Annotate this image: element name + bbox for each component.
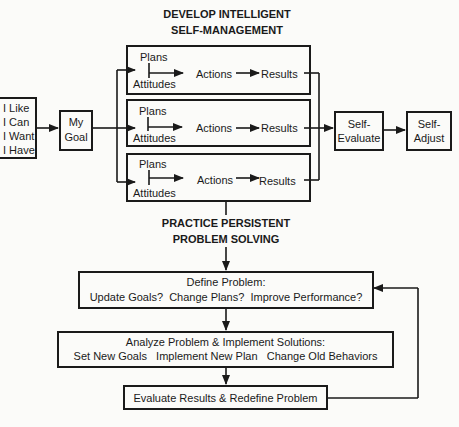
analyze-implement-box: Analyze Problem & Implement Solutions: S… [57,331,394,368]
self-evaluate-line-1: Self- [336,118,382,130]
self-evaluate-line-2: Evaluate [336,132,382,144]
branch-1-attitudes: Attitudes [133,78,176,91]
self-adjust-line-1: Self- [408,118,450,130]
my-goal-box: My Goal [59,110,93,151]
branch-1-actions: Actions [196,68,232,81]
self-adjust-box: Self- Adjust [406,111,452,151]
branch-box-3: Plans Attitudes Actions Results [126,153,311,202]
input-i-want: I Want [3,130,34,143]
goal-line-2: Goal [61,131,91,143]
branch-3-results: Results [259,175,296,188]
goal-line-1: My [61,116,91,128]
define-problem-heading: Define Problem: [80,276,372,288]
branch-1-results: Results [261,68,298,81]
title-line-2: SELF-MANAGEMENT [150,22,304,38]
evaluate-redefine-box: Evaluate Results & Redefine Problem [123,385,328,410]
branch-1-plans: Plans [140,51,168,64]
bottom-title-line-1: PRACTICE PERSISTENT [146,215,306,231]
input-i-can: I Can [3,116,29,129]
branch-2-actions: Actions [196,122,232,135]
top-section-title: DEVELOP INTELLIGENT SELF-MANAGEMENT [150,6,304,38]
input-i-like: I Like [3,102,29,115]
branch-3-actions: Actions [197,174,233,187]
analyze-heading: Analyze Problem & Implement Solutions: [59,336,392,348]
branch-3-plans: Plans [139,158,167,171]
branch-3-attitudes: Attitudes [133,187,176,200]
evaluate-text: Evaluate Results & Redefine Problem [125,392,326,404]
input-i-have: I Have [3,144,35,157]
branch-2-plans: Plans [139,105,167,118]
branch-2-attitudes: Attitudes [133,132,176,145]
define-problem-questions: Update Goals? Change Plans? Improve Perf… [80,291,372,303]
self-adjust-line-2: Adjust [408,132,450,144]
inputs-box: I Like I Can I Want I Have [0,97,37,159]
self-evaluate-box: Self- Evaluate [334,111,384,151]
branch-box-2: Plans Attitudes Actions Results [126,99,311,147]
branch-box-1: Plans Attitudes Actions Results [126,45,311,95]
bottom-section-title: PRACTICE PERSISTENT PROBLEM SOLVING [146,215,306,247]
title-line-1: DEVELOP INTELLIGENT [150,6,304,22]
bottom-title-line-2: PROBLEM SOLVING [146,231,306,247]
define-problem-box: Define Problem: Update Goals? Change Pla… [78,271,374,309]
analyze-actions: Set New Goals Implement New Plan Change … [59,350,392,362]
branch-2-results: Results [261,122,298,135]
